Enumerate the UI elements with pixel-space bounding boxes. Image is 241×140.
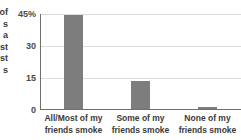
x-axis-category-label-line: All/Most of my — [40, 113, 107, 125]
y-axis-line — [40, 14, 41, 110]
caption-fragment-line: st — [0, 53, 8, 65]
x-axis-line — [40, 109, 241, 110]
bar-chart-figure: ofsaststs 0153045% All/Most of myfriends… — [0, 0, 241, 140]
bar — [64, 15, 83, 109]
x-axis-category-label: All/Most of myfriends smoke — [40, 113, 107, 136]
x-axis-category-label-line: Some of my — [107, 113, 174, 125]
caption-fragment-line: a — [0, 30, 8, 42]
plot-area — [40, 14, 241, 110]
truncated-caption-fragment: ofsaststs — [0, 7, 8, 77]
bar — [131, 81, 150, 109]
y-axis-tick-label: 30 — [8, 42, 36, 51]
y-axis-tick-label: 0 — [8, 106, 36, 115]
y-axis-tick-label: 15 — [8, 74, 36, 83]
caption-fragment-line: s — [0, 19, 8, 31]
x-axis-category-label: Some of myfriends smoke — [107, 113, 174, 136]
x-axis-category-label-line: None of my — [174, 113, 241, 125]
x-axis-category-label-line: friends smoke — [107, 125, 174, 137]
caption-fragment-line: s — [0, 65, 8, 77]
caption-fragment-line: st — [0, 42, 8, 54]
x-axis-category-label-line: friends smoke — [174, 125, 241, 137]
x-axis-category-label-line: friends smoke — [40, 125, 107, 137]
y-axis-tick-label: 45% — [8, 10, 36, 19]
x-axis-category-label: None of myfriends smoke — [174, 113, 241, 136]
x-axis-category-labels: All/Most of myfriends smokeSome of myfri… — [40, 113, 241, 140]
y-axis-tick-labels: 0153045% — [8, 0, 36, 140]
caption-fragment-line: of — [0, 7, 8, 19]
